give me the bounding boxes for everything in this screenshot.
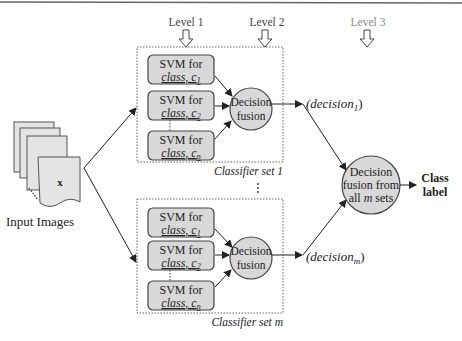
level-2-indicator: Level 2 <box>250 16 285 47</box>
decision-m-to-final-arrow <box>303 200 346 255</box>
input-vector-symbol: x <box>57 176 63 188</box>
svg-text:class, cn: class, cn <box>161 146 200 161</box>
level-2-label: Level 2 <box>250 16 285 28</box>
top-rule <box>0 2 462 3</box>
svg-text:SVM for: SVM for <box>159 210 202 224</box>
svm-box-c1: SVM for class, c1 <box>148 55 214 85</box>
svm-box-cn: SVM for class, cn <box>148 281 214 311</box>
level-1-label: Level 1 <box>169 16 204 28</box>
diagram-svg: Level 1 Level 2 Level 3 x Input Images S… <box>0 0 462 341</box>
classifier-set-m-label: Classifier set m <box>211 316 283 329</box>
svg-text:fusion: fusion <box>237 110 266 122</box>
svm-box-c2: SVM for class, c2 <box>148 241 214 271</box>
svg-text:SVM for: SVM for <box>159 243 202 257</box>
svg-text:class, cn: class, cn <box>161 296 200 311</box>
level-3-label: Level 3 <box>351 16 386 28</box>
svg-text:Decision: Decision <box>231 96 272 108</box>
svg-text:class, c2: class, c2 <box>161 256 200 271</box>
decision-1-label: (decision1) <box>306 96 363 113</box>
svg-text:Decision: Decision <box>231 245 272 257</box>
svg-text:all m sets: all m sets <box>349 191 394 205</box>
svg-text:SVM for: SVM for <box>159 93 202 107</box>
svg-text:SVM for: SVM for <box>159 57 202 71</box>
decision-fusion-node-m: Decision fusion <box>230 237 272 279</box>
down-arrow-icon <box>179 30 193 47</box>
svg-text:class, c2: class, c2 <box>161 106 200 121</box>
input-images-stack: x <box>14 122 80 207</box>
svg-text:SVM for: SVM for <box>159 283 202 297</box>
decision-m-label: (decisionm) <box>306 249 365 266</box>
class-label-line2: label <box>423 185 448 199</box>
decision-fusion-node-1: Decision fusion <box>230 88 272 130</box>
svm-box-cn: SVM for class, cn <box>148 131 214 161</box>
svm-box-c2: SVM for class, c2 <box>148 91 214 121</box>
svm-decision-fusion-diagram: Level 1 Level 2 Level 3 x Input Images S… <box>0 0 462 341</box>
input-to-setm-arrow <box>84 168 136 262</box>
svg-text:fusion: fusion <box>237 259 266 271</box>
svm-box-c1: SVM for class, c1 <box>148 208 214 238</box>
final-decision-fusion-node: Decision fusion from all m sets <box>342 156 400 214</box>
input-to-set1-arrow <box>84 108 136 168</box>
decision-1-to-final-arrow <box>303 104 346 170</box>
input-images-label: Input Images <box>6 214 74 229</box>
sets-ellipsis <box>257 183 259 193</box>
svg-text:class, c1: class, c1 <box>161 70 200 85</box>
level-1-indicator: Level 1 <box>169 16 204 47</box>
classifier-set-1: SVM for class, c1 SVM for class, c2 SVM … <box>137 47 283 162</box>
classifier-set-1-label: Classifier set 1 <box>214 165 283 178</box>
level-3-indicator: Level 3 <box>351 16 386 47</box>
class-label-line1: Class <box>421 171 449 185</box>
svg-text:Decision: Decision <box>350 165 393 179</box>
down-arrow-icon <box>258 30 272 47</box>
down-arrow-icon <box>360 30 374 47</box>
svg-text:SVM for: SVM for <box>159 133 202 147</box>
classifier-set-m: SVM for class, c1 SVM for class, c2 SVM … <box>137 199 283 313</box>
svg-text:fusion from: fusion from <box>343 178 400 192</box>
svg-text:class, c1: class, c1 <box>161 223 200 238</box>
